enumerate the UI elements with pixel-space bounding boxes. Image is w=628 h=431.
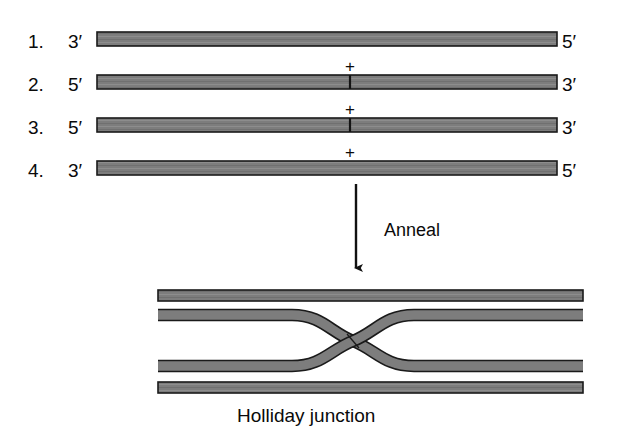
junction-outer-bottom-strand [158, 382, 583, 393]
strand-row-1: 1. 3′ 5′ [28, 31, 577, 52]
dna-strand-4 [97, 161, 557, 175]
strand-left-end-2: 5′ [68, 74, 83, 95]
plus-operator-2: + [345, 100, 355, 119]
strand-right-end-4: 5′ [562, 160, 577, 181]
strand-right-end-3: 3′ [562, 117, 577, 138]
strand-row-4: 4. 3′ 5′ [28, 160, 577, 181]
dna-strand-2 [97, 75, 557, 89]
junction-crossing-strand-lower-outline [158, 315, 583, 366]
strand-left-end-3: 5′ [68, 117, 83, 138]
holliday-junction-structure: Holliday junction [158, 290, 583, 426]
strand-number-2: 2. [28, 74, 44, 95]
plus-operator-3: + [345, 143, 355, 162]
strand-number-4: 4. [28, 160, 44, 181]
junction-crossing-strand-upper-outline [158, 315, 583, 366]
junction-outer-top-strand [158, 290, 583, 301]
strand-right-end-1: 5′ [562, 31, 577, 52]
anneal-arrow-group: Anneal [356, 184, 440, 268]
strand-row-3: 3. 5′ 3′ [28, 117, 577, 138]
dna-strand-1 [97, 32, 557, 46]
anneal-label: Anneal [384, 220, 440, 240]
strand-row-2: 2. 5′ 3′ [28, 74, 577, 95]
diagram-canvas: 1. 3′ 5′ + 2. 5′ 3′ + 3. 5′ 3′ + [0, 0, 628, 431]
junction-crossing-strand-upper [158, 315, 583, 366]
strand-number-3: 3. [28, 117, 44, 138]
plus-operator-1: + [345, 57, 355, 76]
dna-strand-3 [97, 118, 557, 132]
strand-right-end-2: 3′ [562, 74, 577, 95]
strand-left-end-4: 3′ [68, 160, 83, 181]
holliday-junction-figure: 1. 3′ 5′ + 2. 5′ 3′ + 3. 5′ 3′ + [0, 0, 628, 431]
junction-caption: Holliday junction [237, 405, 375, 426]
strand-number-1: 1. [28, 31, 44, 52]
strand-left-end-1: 3′ [68, 31, 83, 52]
junction-crossing-strand-lower [158, 315, 583, 366]
